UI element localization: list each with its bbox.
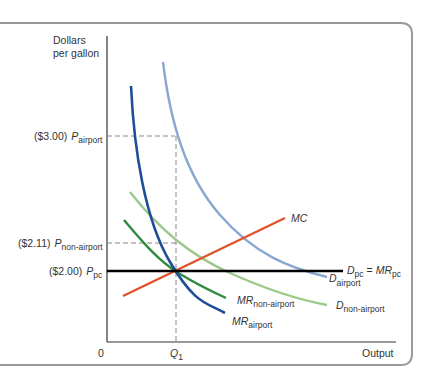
q1-label: Q1 [170,347,183,362]
p-pc-label: ($2.00)Ppc [49,265,103,280]
mc-label: MC [291,212,308,224]
p-airport-label: ($3.00)Pairport [34,130,103,145]
mr-airport-curve [131,86,225,313]
d-airport-curve [163,62,327,277]
d-pc-mr-pc-label: Dpc=MRpc [347,264,402,279]
d-non-airport-label: Dnon-airport [336,299,385,314]
y-axis-label-line2: per gallon [53,47,99,59]
price-discrimination-chart: Dollars per gallon 0 Output Q1 ($3.00)Pa… [0,0,431,382]
mr-non-airport-label: MRnon-airport [237,294,295,309]
mr-non-airport-curve [124,220,226,298]
y-axis-label-line1: Dollars [53,34,86,46]
origin-label: 0 [98,347,104,359]
p-non-airport-label: ($2.11)Pnon-airport [18,237,103,252]
x-axis-label: Output [362,347,394,359]
mc-curve [123,218,285,296]
mr-airport-label: MRairport [232,315,273,330]
d-non-airport-curve [130,192,327,305]
